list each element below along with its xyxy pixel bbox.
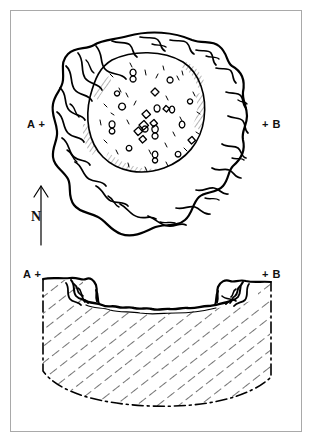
plan-label-b: + B bbox=[262, 118, 281, 130]
section-label-b: + B bbox=[262, 268, 281, 280]
plan-interior-stones bbox=[100, 63, 200, 181]
north-arrow-letter: N bbox=[31, 209, 42, 225]
figure-container: A + + B A + + B N bbox=[0, 0, 312, 442]
plan-and-section-drawing bbox=[0, 0, 312, 442]
section-label-a: A + bbox=[23, 268, 42, 280]
plan-label-a: A + bbox=[27, 118, 46, 130]
section-fill bbox=[30, 270, 290, 415]
